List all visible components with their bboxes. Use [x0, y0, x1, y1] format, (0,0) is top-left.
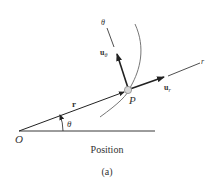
theta-axis-label: θ: [101, 18, 105, 27]
angle-theta-arc: [60, 115, 63, 131]
radius-vector-label: r: [72, 99, 76, 109]
polar-coordinates-diagram: O P r θ r θ ur uθ Position (a): [0, 0, 221, 182]
unit-vector-utheta-subscript: θ: [104, 52, 107, 58]
r-axis-line: [168, 63, 200, 76]
unit-vector-utheta-label: uθ: [100, 48, 107, 58]
origin-label: O: [15, 133, 23, 145]
point-label: P: [128, 94, 136, 106]
angle-label: θ: [67, 119, 72, 129]
unit-vector-utheta: [117, 54, 128, 88]
position-vector-r: [19, 92, 124, 131]
figure-caption-label: (a): [101, 166, 112, 178]
r-axis-label: r: [201, 57, 205, 66]
particle-point-p: [124, 86, 131, 93]
unit-vector-ur-subscript: r: [168, 87, 171, 93]
unit-vector-ur-label: ur: [164, 83, 171, 93]
theta-axis-line: [107, 28, 114, 47]
figure-caption-title: Position: [91, 144, 124, 155]
